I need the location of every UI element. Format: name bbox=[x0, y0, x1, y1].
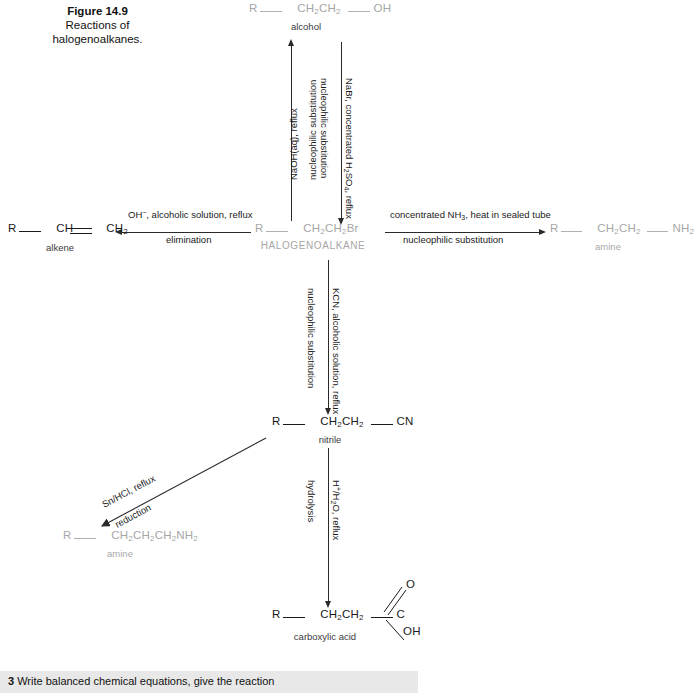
nitrile-chain: CH2CH2 bbox=[320, 415, 363, 427]
reaction-type-nucleophilic-substitution-up: nucleophilic substitution bbox=[307, 80, 318, 180]
amine-right-label: amine bbox=[563, 241, 653, 252]
alkene-ch2: CH2 bbox=[106, 222, 128, 234]
amine-right-functional-group: NH2 bbox=[672, 222, 694, 234]
bond-r-chain-halo bbox=[266, 231, 288, 232]
figure-number: Figure 14.9 bbox=[20, 4, 175, 18]
halogenoalkane-structure: R CH2CH2Br bbox=[255, 222, 359, 236]
arrow-to-nitrile-line bbox=[328, 260, 329, 410]
reaction-type-nucleophilic-substitution-down: nucleophilic substitution bbox=[319, 78, 330, 178]
arrow-from-alcohol-line bbox=[341, 42, 342, 220]
nitrile-functional-group: CN bbox=[396, 415, 413, 427]
bond-r-chain-amine bbox=[561, 231, 582, 232]
carboxylic-r-group: R bbox=[272, 608, 281, 620]
reagent-oh-alcoholic: OH−, alcoholic solution, reflux bbox=[128, 209, 252, 220]
nitrile-label: nitrile bbox=[285, 434, 375, 445]
reagent-naoh-reflux: NaOH(aq), reflux bbox=[288, 108, 299, 180]
alcohol-functional-group: OH bbox=[373, 2, 391, 14]
bond-r-chain-acid bbox=[283, 617, 305, 618]
double-bond-top bbox=[70, 228, 92, 229]
question-text: Write balanced chemical equations, give … bbox=[17, 675, 274, 687]
bond-chain-oh bbox=[348, 11, 370, 12]
halogenoalkane-r-group: R bbox=[255, 222, 264, 234]
reaction-type-nucleophilic-substitution-right: nucleophilic substitution bbox=[403, 234, 503, 245]
figure-caption-text: Reactions of halogenoalkanes. bbox=[20, 18, 175, 46]
bond-r-chain-amine-bottom bbox=[74, 538, 96, 539]
arrow-to-carboxylic-acid-head bbox=[325, 601, 331, 608]
halogenoalkane-label: HALOGENOALKANE bbox=[248, 240, 378, 251]
double-bond-bottom bbox=[70, 233, 92, 234]
arrow-to-amine-line bbox=[385, 232, 540, 233]
bond-chain-cn bbox=[371, 424, 393, 425]
bond-r-chain-nitrile bbox=[283, 424, 305, 425]
reagent-kcn-alcoholic: KCN, alcoholic solution, reflux bbox=[331, 288, 342, 414]
arrow-to-alcohol-head bbox=[288, 39, 294, 46]
nitrile-r-group: R bbox=[272, 415, 281, 427]
carboxylic-chain: CH2CH2 bbox=[320, 608, 363, 620]
carboxylic-double-bond-oxygen: O bbox=[406, 578, 415, 590]
nitrile-structure: R CH2CH2 CN bbox=[272, 415, 414, 429]
arrow-to-carboxylic-acid-line bbox=[328, 448, 329, 603]
reagent-concentrated-nh3: concentrated NH3, heat in sealed tube bbox=[390, 209, 551, 221]
arrow-to-amine-head bbox=[539, 229, 546, 235]
alkene-label: alkene bbox=[15, 242, 105, 253]
bond-r-chain bbox=[260, 11, 282, 12]
amine-bottom-structure: R CH2CH2CH2NH2 bbox=[63, 529, 198, 543]
arrow-to-alkene-line bbox=[122, 232, 251, 233]
figure-caption: Figure 14.9 Reactions of halogenoalkanes… bbox=[20, 4, 175, 46]
carboxylic-acid-label: carboxylic acid bbox=[265, 631, 385, 642]
halogenoalkane-chain: CH2CH2Br bbox=[303, 222, 358, 234]
amine-right-r-group: R bbox=[550, 222, 559, 234]
bottom-question-band: 3 Write balanced chemical equations, giv… bbox=[0, 671, 418, 693]
single-bond-oh-line bbox=[386, 620, 404, 640]
bond-chain-nh2 bbox=[647, 231, 668, 232]
alcohol-chain: CH2CH2 bbox=[297, 2, 340, 14]
amine-bottom-r-group: R bbox=[63, 529, 72, 541]
amine-right-chain: CH2CH2 bbox=[597, 222, 640, 234]
alcohol-r-group: R bbox=[249, 2, 258, 14]
bond-r-ch bbox=[19, 231, 41, 232]
carboxylic-hydroxyl: OH bbox=[403, 625, 421, 637]
alkene-structure: R CH CH2 bbox=[8, 222, 128, 236]
alkene-r-group: R bbox=[8, 222, 17, 234]
reaction-type-elimination: elimination bbox=[166, 234, 211, 245]
reaction-type-nucleophilic-substitution-kcn: nucleophilic substitution bbox=[306, 288, 317, 388]
bottom-question: 3 Write balanced chemical equations, giv… bbox=[8, 675, 274, 687]
arrow-to-nitrile-head bbox=[325, 408, 331, 415]
amine-bottom-label: amine bbox=[75, 548, 165, 559]
question-number: 3 bbox=[8, 675, 14, 687]
amine-right-structure: R CH2CH2 NH2 bbox=[550, 222, 694, 236]
reagent-h-h2o-reflux: H+/H2O, reflux bbox=[330, 480, 342, 540]
amine-bottom-chain: CH2CH2CH2NH2 bbox=[111, 529, 198, 541]
reaction-type-hydrolysis: hydrolysis bbox=[306, 480, 317, 522]
reagent-nabr-h2so4: NaBr, concentrated H2SO4, reflux bbox=[343, 78, 355, 219]
alcohol-label: alcohol bbox=[256, 21, 356, 32]
alcohol-structure: R CH2CH2 OH bbox=[249, 2, 391, 16]
